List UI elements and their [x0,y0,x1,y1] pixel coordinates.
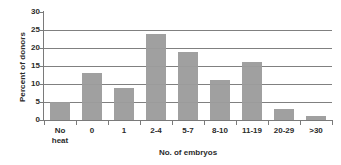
x-axis-tick-label: 20-29 [268,126,300,146]
bar-slot [76,12,108,120]
bar[interactable] [242,62,262,120]
bar-slot [172,12,204,120]
bar[interactable] [50,102,70,120]
y-axis-tick-label: 5 [18,98,40,106]
bar-chart: Percent of donors 051015202530 No heat01… [0,0,341,165]
x-axis-tick-labels: No heat012-45-78-1011-1920-29>30 [44,126,332,146]
x-axis-tick-label: No heat [44,126,76,146]
y-axis-tick-labels: 051015202530 [18,8,40,120]
y-axis-tick-label: 30 [18,8,40,16]
y-axis-tick-label: 0 [18,116,40,124]
x-axis-tick-mark [76,121,77,125]
bar[interactable] [114,88,134,120]
plot-area [44,12,332,120]
bar-slot [268,12,300,120]
x-axis-tick-mark [172,121,173,125]
bar-slot [44,12,76,120]
y-axis-tick-label: 15 [18,62,40,70]
y-axis-tick-mark [39,48,43,49]
x-axis-tick-mark [44,121,45,125]
bar[interactable] [146,34,166,120]
x-axis-tick-mark [300,121,301,125]
bar-slot [140,12,172,120]
x-axis-tick-mark [268,121,269,125]
y-axis-tick-label: 10 [18,80,40,88]
x-axis-tick-label: 0 [76,126,108,146]
bar[interactable] [274,109,294,120]
x-axis-tick-mark [236,121,237,125]
x-axis-tick-mark [204,121,205,125]
x-axis-tick-label: 1 [108,126,140,146]
y-axis-tick-mark [39,84,43,85]
bar-slot [204,12,236,120]
bar-slot [108,12,140,120]
bar[interactable] [82,73,102,120]
y-axis-tick-mark [39,30,43,31]
bars-layer [44,12,332,120]
bar[interactable] [178,52,198,120]
y-axis-tick-mark [39,120,43,121]
x-axis-tick-label: 8-10 [204,126,236,146]
x-axis-tick-label: 2-4 [140,126,172,146]
x-axis-tick-mark [332,121,333,125]
bar[interactable] [210,80,230,120]
bar-slot [300,12,332,120]
x-axis-tick-label: 11-19 [236,126,268,146]
x-axis-tick-mark [140,121,141,125]
y-axis-tick-label: 20 [18,44,40,52]
y-axis-tick-mark [39,12,43,13]
y-axis-tick-label: 25 [18,26,40,34]
bar[interactable] [306,116,326,120]
y-axis-tick-mark [39,66,43,67]
x-axis-line [43,120,333,121]
x-axis-tick-mark [108,121,109,125]
x-axis-tick-label: >30 [300,126,332,146]
bar-slot [236,12,268,120]
y-axis-tick-mark [39,102,43,103]
x-axis-tick-label: 5-7 [172,126,204,146]
x-axis-title: No. of embryos [44,148,332,158]
